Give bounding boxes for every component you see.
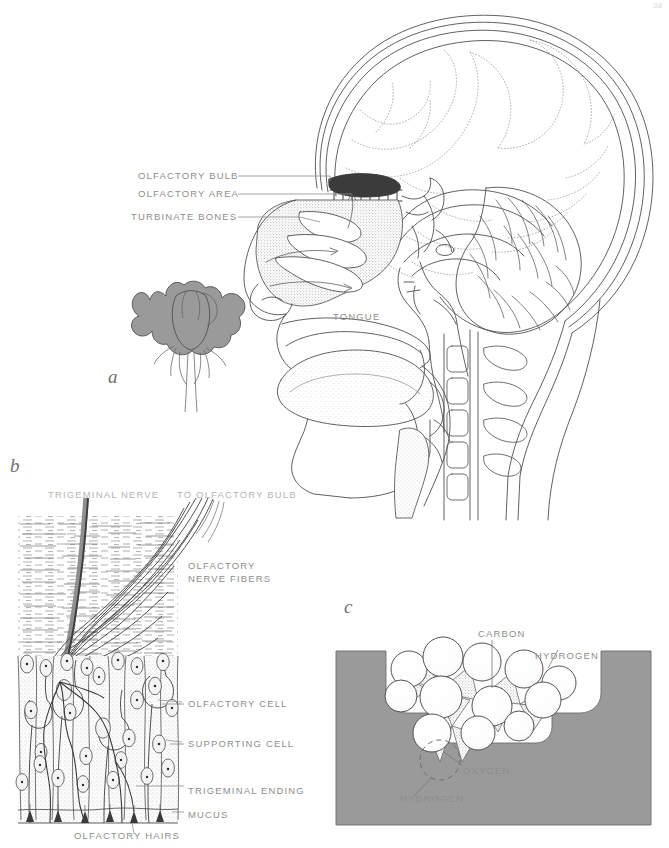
atom-sphere xyxy=(461,716,495,750)
label-olfactory-area: OLFACTORY AREA xyxy=(138,188,239,200)
nasal-cavity xyxy=(256,194,403,306)
label-trigeminal-ending: TRIGEMINAL ENDING xyxy=(188,785,305,797)
label-hydrogen-top: HYDROGEN xyxy=(535,650,599,662)
olfactory-epithelium xyxy=(16,652,179,823)
label-trigeminal-nerve: TRIGEMINAL NERVE xyxy=(48,489,159,501)
label-carbon: CARBON xyxy=(478,628,526,640)
atom-sphere xyxy=(525,682,561,718)
cervical-vertebrae xyxy=(444,330,527,520)
oral-cavity-tongue xyxy=(277,318,444,436)
label-olfactory-hairs: OLFACTORY HAIRS xyxy=(74,830,180,842)
label-supporting-cell: SUPPORTING CELL xyxy=(188,738,294,750)
atom-sphere xyxy=(463,643,501,681)
olfaction-figure: 38 xyxy=(0,0,669,848)
label-olfactory-bulb: OLFACTORY BULB xyxy=(138,170,239,182)
sphenoid-detail xyxy=(402,178,452,258)
atom-sphere xyxy=(385,680,417,712)
panel-letter-b: b xyxy=(10,455,20,477)
label-mucus: MUCUS xyxy=(188,809,229,821)
atom-sphere-oxygen xyxy=(413,714,451,752)
panel-letter-c: c xyxy=(344,596,352,618)
atom-sphere xyxy=(423,637,463,677)
label-olfactory-cell: OLFACTORY CELL xyxy=(188,698,288,710)
label-oxygen: OXYGEN xyxy=(463,765,511,777)
label-olfactory-nerve-fibers-line1: OLFACTORY xyxy=(188,560,256,572)
atom-sphere xyxy=(504,711,534,741)
page-number: 38 xyxy=(653,1,663,10)
figure-canvas xyxy=(0,0,669,848)
cerebellum xyxy=(456,187,581,334)
panel-b-epithelium xyxy=(16,498,224,834)
olfactory-bulb xyxy=(329,174,400,197)
atom-sphere-carbon xyxy=(420,676,462,718)
panel-a-head-diagram xyxy=(244,15,653,520)
label-hydrogen-bottom: HYDROGEN xyxy=(400,793,464,805)
label-tongue: TONGUE xyxy=(333,311,380,323)
label-olfactory-nerve-fibers-line2: NERVE FIBERS xyxy=(188,573,271,585)
label-turbinate-bones: TURBINATE BONES xyxy=(131,211,237,223)
label-to-olfactory-bulb: TO OLFACTORY BULB xyxy=(177,489,297,501)
rose-illustration xyxy=(132,281,245,412)
panel-letter-a: a xyxy=(108,366,118,388)
panel-c-receptor xyxy=(336,637,651,825)
